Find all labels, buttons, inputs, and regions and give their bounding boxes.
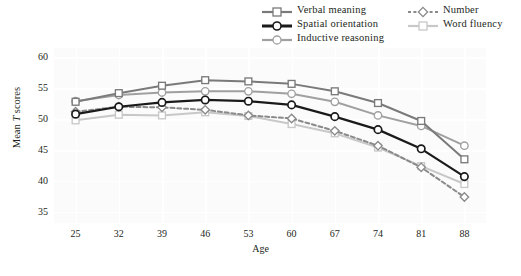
- x-axis-tick-label: 74: [363, 228, 393, 239]
- gridline-horizontal: [54, 150, 486, 152]
- legend-swatch-diamond-icon: [408, 4, 438, 16]
- legend-swatch-circle-icon: [262, 32, 292, 44]
- y-axis-tick-label: 50: [24, 113, 48, 124]
- legend-item-word-fluency[interactable]: Word fluency: [408, 17, 518, 31]
- gridline-horizontal: [54, 57, 486, 59]
- y-axis-title-italic: T: [11, 116, 22, 122]
- gridline-vertical: [205, 48, 207, 223]
- x-axis-tick-label: 39: [147, 228, 177, 239]
- y-axis-title: Mean T scores: [11, 58, 22, 178]
- gridline-vertical: [378, 48, 380, 223]
- x-axis-tick-label: 67: [320, 228, 350, 239]
- y-axis-tick-label: 45: [24, 144, 48, 155]
- legend-swatch-square-icon: [408, 18, 438, 30]
- legend-label: Spatial orientation: [297, 18, 378, 30]
- legend-swatch-circle-icon: [262, 18, 292, 30]
- x-axis-tick-label: 53: [233, 228, 263, 239]
- x-axis-tick-label: 25: [61, 228, 91, 239]
- gridline-vertical: [248, 48, 250, 223]
- x-axis-tick-label: 88: [449, 228, 479, 239]
- x-axis-tick-label: 81: [406, 228, 436, 239]
- line-chart: Verbal meaning Spatial orientation: [0, 0, 521, 276]
- gridline-vertical: [292, 48, 294, 223]
- gridline-vertical: [162, 48, 164, 223]
- legend-label: Word fluency: [443, 18, 503, 30]
- gridline-vertical: [76, 48, 78, 223]
- gridline-vertical: [119, 48, 121, 223]
- legend-item-verbal-meaning[interactable]: Verbal meaning: [262, 3, 408, 17]
- y-axis-tick-label: 55: [24, 82, 48, 93]
- legend-item-inductive-reasoning[interactable]: Inductive reasoning: [262, 31, 408, 45]
- x-axis-tick-label: 60: [277, 228, 307, 239]
- legend-item-number[interactable]: Number: [408, 3, 518, 17]
- x-axis-tick-label: 46: [190, 228, 220, 239]
- gridline-horizontal: [54, 88, 486, 90]
- gridline-horizontal: [54, 119, 486, 121]
- legend-label: Verbal meaning: [297, 4, 366, 16]
- legend-item-spatial-orientation[interactable]: Spatial orientation: [262, 17, 408, 31]
- y-axis-tick-label: 40: [24, 175, 48, 186]
- y-axis-title-prefix: Mean: [11, 122, 22, 149]
- legend-column-left: Verbal meaning Spatial orientation: [262, 3, 408, 45]
- plot-area: [54, 48, 486, 223]
- gridline-horizontal: [54, 212, 486, 214]
- gridline-vertical: [421, 48, 423, 223]
- x-axis-tick-label: 32: [104, 228, 134, 239]
- gridline-vertical: [335, 48, 337, 223]
- gridline-vertical: [464, 48, 466, 223]
- legend-column-right: Number Word fluency: [408, 3, 518, 45]
- y-axis-tick-label: 60: [24, 51, 48, 62]
- chart-legend: Verbal meaning Spatial orientation: [262, 3, 518, 45]
- y-axis-title-suffix: scores: [11, 87, 22, 116]
- x-axis-title: Age: [0, 243, 521, 254]
- legend-label: Inductive reasoning: [297, 32, 384, 44]
- gridline-horizontal: [54, 181, 486, 183]
- legend-swatch-square-icon: [262, 4, 292, 16]
- y-axis-tick-label: 35: [24, 206, 48, 217]
- legend-label: Number: [443, 4, 479, 16]
